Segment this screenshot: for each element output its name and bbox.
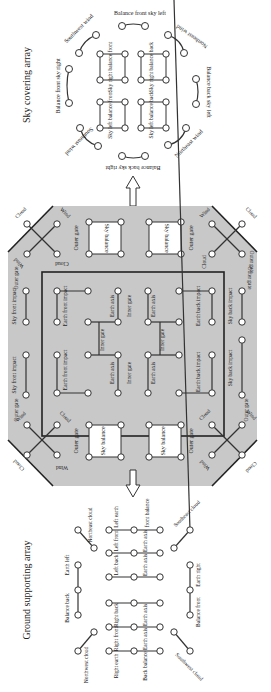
svg-text:Inner gate: Inner gate <box>99 328 105 351</box>
node <box>119 23 126 30</box>
svg-text:Sky right balance front: Sky right balance front <box>107 41 113 92</box>
svg-text:Balance front: Balance front <box>195 597 201 627</box>
node <box>193 101 200 108</box>
node <box>66 66 73 73</box>
svg-text:Earth back impact: Earth back impact <box>195 286 201 326</box>
svg-text:Cloud: Cloud <box>55 261 69 267</box>
sky-box-left-front: Sky left balance front <box>97 91 128 139</box>
label-northeast-cloud: Northeast cloud <box>87 507 93 542</box>
label-balance-back-sky-left: Balance back sky left <box>206 66 212 118</box>
svg-text:Left earth: Left earth <box>113 506 119 528</box>
svg-text:Outer gate: Outer gate <box>13 266 19 290</box>
node <box>142 153 149 160</box>
node <box>193 76 200 83</box>
svg-text:Earth axis: Earth axis <box>150 362 156 384</box>
label-southwest-wind: Southwest wind <box>63 13 94 44</box>
svg-text:Cloud: Cloud <box>14 206 28 220</box>
svg-text:Left front: Left front <box>113 530 119 552</box>
svg-text:Earth right: Earth right <box>195 563 201 587</box>
svg-text:Earth axis: Earth axis <box>142 604 148 626</box>
ground-row-2: Left front Earth axis <box>106 530 163 556</box>
node <box>142 23 149 30</box>
node <box>66 100 73 107</box>
ground-row-1: Left earth front balance <box>106 498 163 533</box>
ground-array-title: Ground supporting array <box>21 541 32 640</box>
sky-box-right-back: Sky right balance back <box>138 42 169 92</box>
ground-row-3: Left back Earth axis <box>106 554 163 580</box>
svg-text:Cloud: Cloud <box>244 461 258 475</box>
node <box>95 143 102 150</box>
svg-text:Sky right balance back: Sky right balance back <box>148 42 154 92</box>
svg-text:Earth axis: Earth axis <box>109 362 115 384</box>
ground-row-4: Right back Earth axis <box>106 600 163 627</box>
svg-text:Outer gate: Outer gate <box>73 428 79 453</box>
svg-text:Earth front impact: Earth front impact <box>62 349 68 390</box>
svg-text:Outer gate: Outer gate <box>247 266 253 290</box>
perimeter-link <box>67 69 69 103</box>
sky-box-right-front: Sky right balance front <box>97 41 128 92</box>
svg-text:Earth front impact: Earth front impact <box>62 285 68 326</box>
svg-text:Sky back impact: Sky back impact <box>227 349 233 386</box>
svg-text:Inner gate: Inner gate <box>126 294 132 317</box>
svg-text:Outer gate: Outer gate <box>73 225 79 250</box>
svg-text:Sky balance: Sky balance <box>104 223 110 252</box>
svg-text:Earth axis: Earth axis <box>142 530 148 552</box>
arrow-up-icon <box>126 176 140 206</box>
svg-text:Outer gate: Outer gate <box>188 428 194 453</box>
svg-text:Inner gate: Inner gate <box>159 328 165 351</box>
svg-text:Cloud: Cloud <box>12 458 26 472</box>
svg-text:Sky left balance front: Sky left balance front <box>107 91 113 139</box>
svg-text:Cloud: Cloud <box>201 255 207 269</box>
node <box>77 125 84 132</box>
label-northwest-cloud: Northwest cloud <box>83 647 89 684</box>
label-balance-front-sky-right: Balance front sky right <box>55 58 61 113</box>
svg-text:Outer gate: Outer gate <box>188 225 194 250</box>
svg-text:Earth axis: Earth axis <box>109 295 115 317</box>
node <box>76 50 83 57</box>
svg-text:Sky front impact: Sky front impact <box>11 356 17 393</box>
svg-text:Sky balance: Sky balance <box>164 223 170 252</box>
node <box>119 153 126 160</box>
svg-text:Cloud: Cloud <box>245 206 259 220</box>
svg-text:Left back: Left back <box>113 554 119 575</box>
label-northeast-wind: Northeast wind <box>175 24 209 50</box>
node <box>165 32 172 39</box>
svg-text:Back balance: Back balance <box>142 651 148 681</box>
label-southwest-cloud: Southwest cloud <box>174 652 204 682</box>
svg-text:front balance: front balance <box>144 498 150 527</box>
ground-row-5: Right front Earth axis <box>106 624 163 651</box>
array-diagram: Sky covering array Balance front sky lef… <box>0 0 271 692</box>
sky-covering-array: Sky covering array Balance front sky lef… <box>21 10 212 171</box>
svg-text:Outer gate: Outer gate <box>243 398 249 422</box>
node <box>165 142 172 149</box>
svg-text:Outer gate: Outer gate <box>13 398 19 422</box>
label-balance-front-sky-left: Balance front sky left <box>114 10 166 16</box>
diagram-canvas: Sky covering array Balance front sky lef… <box>0 0 271 692</box>
node <box>183 125 190 132</box>
svg-text:Right front: Right front <box>113 626 119 651</box>
node <box>93 32 100 39</box>
svg-text:Earth left: Earth left <box>64 554 70 575</box>
label-balance-back-sky-right: Balance back sky right <box>105 165 160 171</box>
sky-box-left-back: Sky left balance back <box>138 91 169 138</box>
svg-text:Right earth: Right earth <box>113 653 119 678</box>
svg-text:Balance back: Balance back <box>64 593 70 623</box>
sky-array-title: Sky covering array <box>21 47 32 123</box>
svg-text:Sky back impact: Sky back impact <box>227 287 233 324</box>
svg-text:Earth back impact: Earth back impact <box>195 352 201 392</box>
svg-text:Earth axis: Earth axis <box>150 295 156 317</box>
central-structure: Cloud Wind Wind Cloud Wind Cloud Cloud O… <box>8 206 258 486</box>
svg-text:Wind: Wind <box>56 465 68 471</box>
svg-text:Right back: Right back <box>113 603 119 627</box>
label-southeast-cloud: Southeast cloud <box>172 499 201 528</box>
node <box>181 50 188 57</box>
svg-text:Sky balance: Sky balance <box>160 426 166 455</box>
svg-text:Sky front impact: Sky front impact <box>11 287 17 324</box>
svg-text:Inner gate: Inner gate <box>126 361 132 384</box>
svg-text:Earth axis: Earth axis <box>142 554 148 576</box>
svg-text:Sky left balance back: Sky left balance back <box>148 91 154 138</box>
ground-row-6: Right earth Back balance <box>106 648 163 681</box>
svg-text:Sky balance: Sky balance <box>100 426 106 455</box>
svg-text:Earth axis: Earth axis <box>142 628 148 650</box>
